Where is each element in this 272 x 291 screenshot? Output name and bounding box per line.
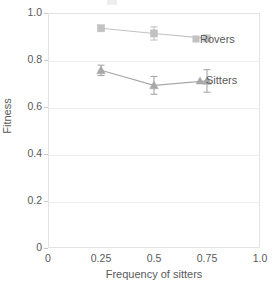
y-tick-mark: [44, 60, 48, 61]
x-axis-title: Frequency of sitters: [48, 268, 260, 280]
fitness-vs-frequency-chart: 00.20.40.60.81.0 00.250.50.751.0 Rovers …: [0, 0, 272, 291]
y-tick-mark: [44, 107, 48, 108]
x-tick-label: 1.0: [240, 252, 272, 264]
x-tick-label: 0.25: [81, 252, 121, 264]
y-tick-mark: [44, 13, 48, 14]
y-tick-label: 0.2: [4, 194, 42, 206]
y-tick-mark: [44, 248, 48, 249]
y-tick-label: 1.0: [4, 6, 42, 18]
series-label-sitters: Sitters: [206, 74, 237, 86]
y-tick-label: 0.8: [4, 53, 42, 65]
x-tick-label: 0: [28, 252, 68, 264]
y-tick-mark: [44, 201, 48, 202]
y-axis-title: Fitness: [1, 76, 13, 156]
x-tick-label: 0.5: [134, 252, 174, 264]
series-label-rovers: Rovers: [200, 33, 235, 45]
x-tick-label: 0.75: [187, 252, 227, 264]
y-tick-mark: [44, 154, 48, 155]
